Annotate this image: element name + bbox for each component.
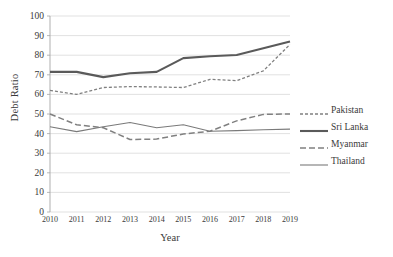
chart-legend: PakistanSri LankaMyanmarThailand xyxy=(300,101,392,169)
x-axis-tick-label: 2019 xyxy=(270,215,310,225)
series-line-thailand xyxy=(50,122,290,131)
legend-item-pakistan: Pakistan xyxy=(300,101,392,118)
legend-item-myanmar: Myanmar xyxy=(300,135,392,152)
x-axis-title: Year xyxy=(50,232,290,243)
legend-label: Pakistan xyxy=(328,105,363,115)
series-line-sri-lanka xyxy=(50,41,290,77)
x-axis-tick-labels: 2010201120122013201420152016201720182019 xyxy=(50,215,290,229)
legend-item-thailand: Thailand xyxy=(300,152,392,169)
axis-lines xyxy=(47,16,50,212)
legend-swatch xyxy=(300,105,328,115)
gridlines xyxy=(50,16,290,212)
debt-ratio-line-chart: Debt Ratio 0102030405060708090100 201020… xyxy=(0,0,393,257)
series-lines xyxy=(50,41,290,139)
legend-swatch xyxy=(300,139,328,149)
legend-item-sri-lanka: Sri Lanka xyxy=(300,118,392,135)
legend-swatch xyxy=(300,122,328,132)
legend-label: Myanmar xyxy=(328,139,368,149)
legend-swatch xyxy=(300,156,328,166)
legend-label: Sri Lanka xyxy=(328,122,368,132)
series-line-pakistan xyxy=(50,44,290,94)
legend-label: Thailand xyxy=(328,156,365,166)
